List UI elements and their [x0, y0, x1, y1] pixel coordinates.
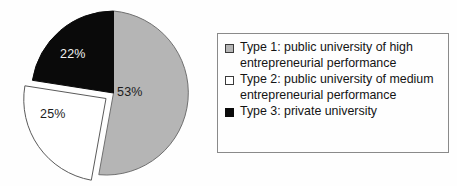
- pie-chart-plot: 53% 25% 22%: [0, 0, 215, 186]
- pie-label-type-3: 22%: [60, 47, 86, 61]
- legend-item-type-1-label: Type 1: public university of high entrep…: [240, 40, 442, 71]
- legend-item-type-2-label: Type 2: public university of medium entr…: [240, 72, 442, 103]
- legend-item-type-2[interactable]: Type 2: public university of medium entr…: [225, 72, 442, 103]
- pie-label-type-2: 25%: [40, 107, 66, 121]
- pie-label-type-1: 53%: [117, 85, 143, 99]
- white-swatch-icon: [225, 76, 234, 85]
- pie-chart-figure: 53% 25% 22% Type 1: public university of…: [0, 0, 457, 186]
- gray-swatch-icon: [225, 44, 234, 53]
- pie-svg: [0, 0, 215, 186]
- legend-item-type-3[interactable]: Type 3: private university: [225, 104, 442, 120]
- black-swatch-icon: [225, 108, 234, 117]
- chart-legend: Type 1: public university of high entrep…: [217, 33, 449, 153]
- pie-slice-type-2-group: [24, 86, 106, 180]
- legend-item-type-3-label: Type 3: private university: [240, 104, 377, 120]
- pie-slice-type-2[interactable]: [24, 86, 106, 180]
- legend-item-type-1[interactable]: Type 1: public university of high entrep…: [225, 40, 442, 71]
